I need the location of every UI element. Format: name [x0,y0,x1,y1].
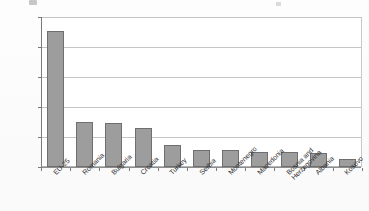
y-axis-tick-mark [38,77,41,78]
y-axis-tick-mark [38,107,41,108]
bar-chart: 25000,0020000.0015000.0010000.005000.000… [0,0,369,211]
y-axis-tick-mark [38,47,41,48]
x-axis-labels: EU-25RomaniaBulgariaCroatiaTurkeySerbiaM… [41,171,362,211]
x-axis-tick-mark [362,168,363,171]
y-axis-line [41,17,42,168]
y-axis-tick-mark [38,137,41,138]
scan-artifact-icon [29,0,37,5]
y-axis-tick-mark [38,17,41,18]
bar [47,31,64,167]
scan-artifact-icon [276,2,281,6]
